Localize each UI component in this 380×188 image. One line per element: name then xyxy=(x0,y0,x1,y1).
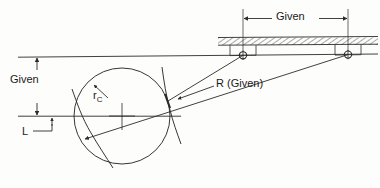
diagram-vector-layer xyxy=(0,0,380,188)
leader-r-given-arrow xyxy=(178,86,214,99)
label-given-vertical: Given xyxy=(10,74,39,85)
label-cam-radius-rc: rC xyxy=(93,90,102,104)
label-rc-subscript: C xyxy=(97,95,103,104)
diagram-canvas: Given Given L rC R (Given) xyxy=(0,0,380,188)
ground-hatch-fill xyxy=(218,38,378,46)
ground-top-edge xyxy=(218,37,378,38)
label-given-horizontal: Given xyxy=(276,11,305,22)
construction-arc-right xyxy=(162,67,181,144)
leader-l-path xyxy=(33,124,52,131)
arc-intersection-tick xyxy=(165,94,170,108)
linkage-line-long-to-right-pin xyxy=(85,55,348,139)
upper-reference-line xyxy=(18,54,378,57)
label-link-length-l: L xyxy=(22,126,28,137)
leader-l-group xyxy=(33,118,52,131)
label-radius-given: R (Given) xyxy=(216,78,263,89)
ground-surface-group xyxy=(218,37,378,46)
leader-r-given-group xyxy=(178,86,214,99)
